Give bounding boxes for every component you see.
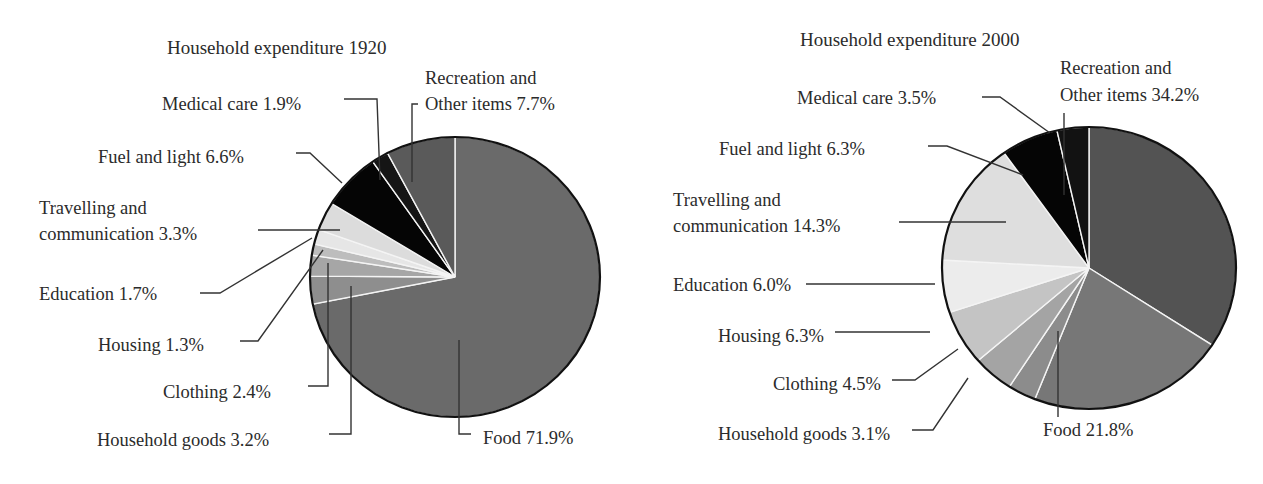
label-clothing-1920: Clothing 2.4% <box>163 382 271 402</box>
leader-medical-2000 <box>982 97 1050 133</box>
leader-household-goods-2000 <box>912 378 968 430</box>
chart-title-2000: Household expenditure 2000 <box>800 29 1020 50</box>
label-food-2000: Food 21.8% <box>1043 420 1133 440</box>
label-household-goods-2000: Household goods 3.1% <box>718 424 890 444</box>
leader-education-1920 <box>200 238 312 293</box>
pie-slices-2000 <box>942 127 1236 409</box>
leader-clothing-2000 <box>892 349 958 380</box>
label-fuel-2000: Fuel and light 6.3% <box>719 139 865 159</box>
label-medical-1920: Medical care 1.9% <box>162 94 301 114</box>
pie-slices-1920 <box>310 137 600 417</box>
label-housing-2000: Housing 6.3% <box>718 326 824 346</box>
label-fuel-1920: Fuel and light 6.6% <box>98 147 244 167</box>
label-recreation-1920-line2: Other items 7.7% <box>425 94 555 114</box>
label-recreation-2000-line1: Recreation and <box>1060 58 1172 78</box>
leader-fuel-1920 <box>296 153 342 183</box>
label-housing-1920: Housing 1.3% <box>98 335 204 355</box>
label-education-2000: Education 6.0% <box>673 275 791 295</box>
label-travelling-1920-line1: Travelling and <box>39 198 147 218</box>
label-recreation-2000-line2: Other items 34.2% <box>1060 85 1199 105</box>
chart-title-1920: Household expenditure 1920 <box>167 37 387 58</box>
label-clothing-2000: Clothing 4.5% <box>773 374 881 394</box>
label-travelling-2000-line2: communication 14.3% <box>673 216 841 236</box>
label-education-1920: Education 1.7% <box>39 284 157 304</box>
pie-chart-2000: Household expenditure 2000 Medical care … <box>673 29 1236 444</box>
label-household-goods-1920: Household goods 3.2% <box>97 430 269 450</box>
pie-chart-1920: Household expenditure 1920 Medical care … <box>39 37 600 450</box>
label-travelling-2000-line1: Travelling and <box>673 190 781 210</box>
label-travelling-1920-line2: communication 3.3% <box>39 224 197 244</box>
label-food-1920: Food 71.9% <box>483 428 573 448</box>
label-medical-2000: Medical care 3.5% <box>797 88 936 108</box>
label-recreation-1920-line1: Recreation and <box>425 68 537 88</box>
